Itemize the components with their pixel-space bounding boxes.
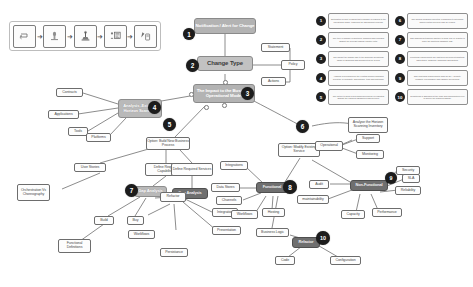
- legend-text: Gap analysis determines whether to build…: [407, 32, 468, 48]
- badge-9[interactable]: 9: [385, 172, 397, 184]
- badge-3[interactable]: 3: [241, 87, 254, 100]
- legend-number: 9: [395, 73, 405, 83]
- legend-item: 9 Non-functional requirements such as SL…: [395, 70, 468, 87]
- legend-number: 8: [395, 54, 405, 64]
- legend-text: Notification or alert is raised that a c…: [328, 13, 389, 29]
- node-sla[interactable]: SLA: [402, 174, 420, 183]
- legend-item: 2 The type of change is identified, clas…: [316, 31, 389, 48]
- connector-dot: [223, 80, 228, 85]
- node-workflows-left[interactable]: Workflows: [128, 230, 155, 239]
- node-functional-definitions[interactable]: Functional Definitions: [58, 239, 91, 253]
- connector-dot: [204, 105, 209, 110]
- badge-2[interactable]: 2: [186, 59, 199, 72]
- mindmap-canvas: ➜ ➜ ➜: [0, 0, 473, 287]
- arrow-icon-1: ➜: [37, 33, 43, 40]
- node-platforms[interactable]: Platforms: [86, 133, 111, 142]
- legend-item: 8 Functional requirements are captured c…: [395, 50, 468, 67]
- node-option-modify-existing-service[interactable]: Option: Modify Existing Service: [278, 143, 320, 157]
- legend-panel: 1 Notification or alert is raised that a…: [316, 12, 468, 112]
- legend-text: The type of change is identified, classi…: [328, 32, 389, 48]
- arrow-icon-2: ➜: [67, 33, 73, 40]
- connector-dot: [222, 103, 227, 108]
- badge-8[interactable]: 8: [283, 180, 297, 194]
- legend-item: 5 The option to build a new business pro…: [316, 89, 389, 106]
- node-statement[interactable]: Statement: [261, 43, 290, 52]
- node-performance[interactable]: Performance: [372, 208, 402, 217]
- legend-item: 6 The horizon scanning inventory is anal…: [395, 12, 468, 29]
- document-scan-icon: [43, 25, 66, 48]
- node-applications[interactable]: Applications: [48, 110, 79, 119]
- process-icon-legend: ➜ ➜ ➜: [9, 21, 161, 51]
- node-hosting[interactable]: Hosting: [262, 208, 285, 217]
- node-operational[interactable]: Operational: [315, 141, 343, 151]
- node-contracts[interactable]: Contracts: [56, 88, 83, 97]
- node-configuration[interactable]: Configuration: [330, 256, 361, 265]
- legend-text: Non-functional requirements such as SLA,…: [407, 70, 468, 86]
- legend-text: Analysis is performed on the existing ho…: [328, 70, 389, 86]
- badge-5[interactable]: 5: [163, 118, 176, 131]
- node-non-functional[interactable]: Non-Functional: [350, 180, 388, 191]
- node-notification-alert[interactable]: Notification / Alert for Change: [194, 18, 256, 34]
- legend-item: 10 Refactoring is assessed at the code a…: [395, 89, 468, 106]
- arrow-icon-4: ➜: [127, 33, 133, 40]
- legend-number: 3: [316, 54, 326, 64]
- badge-7[interactable]: 7: [125, 184, 138, 197]
- pen-tablet-icon: [134, 25, 157, 48]
- legend-text: The impact the change has to the busines…: [328, 51, 389, 67]
- connector-dot: [189, 92, 194, 97]
- badge-4[interactable]: 4: [148, 101, 161, 114]
- legend-text: The option to build a new business proce…: [328, 89, 389, 105]
- legend-number: 6: [395, 16, 405, 26]
- legend-text: Functional requirements are captured cov…: [407, 51, 468, 67]
- legend-column-right: 6 The horizon scanning inventory is anal…: [395, 12, 468, 108]
- node-integrations[interactable]: Integrations: [220, 161, 248, 170]
- legend-text: The horizon scanning inventory is analys…: [407, 13, 468, 29]
- arrow-icon-3: ➜: [97, 33, 103, 40]
- legend-item: 4 Analysis is performed on the existing …: [316, 70, 389, 87]
- node-orchestration-vs-choreography[interactable]: Orchestration Vs Choreography: [17, 184, 50, 201]
- node-policy[interactable]: Policy: [281, 60, 305, 70]
- node-tools[interactable]: Tools: [68, 127, 88, 136]
- node-buy[interactable]: Buy: [127, 216, 144, 225]
- node-reliability[interactable]: Reliability: [395, 186, 421, 195]
- badge-10[interactable]: 10: [316, 231, 330, 245]
- badge-1[interactable]: 1: [183, 28, 195, 40]
- microscope-icon: [74, 25, 97, 48]
- node-persistance[interactable]: Persistance: [160, 248, 188, 257]
- node-audit[interactable]: Audit: [309, 180, 329, 189]
- legend-column-left: 1 Notification or alert is raised that a…: [316, 12, 389, 108]
- return-arrow-icon: [13, 25, 36, 48]
- node-define-required-services[interactable]: Define Required Services: [171, 163, 213, 176]
- legend-item: 1 Notification or alert is raised that a…: [316, 12, 389, 29]
- legend-number: 4: [316, 73, 326, 83]
- node-option-build-new-business-process[interactable]: Option: Build New Business Process: [146, 137, 190, 150]
- node-channels[interactable]: Channels: [216, 196, 242, 205]
- node-maintainability[interactable]: maintainability: [297, 195, 329, 204]
- node-refactor-left[interactable]: Refactor: [160, 192, 186, 202]
- legend-number: 7: [395, 35, 405, 45]
- node-actions[interactable]: Actions: [261, 77, 286, 86]
- node-business-logic[interactable]: Business Logic: [256, 228, 289, 237]
- legend-text: Refactoring is assessed at the code and …: [407, 89, 468, 105]
- node-change-type[interactable]: Change Type: [197, 56, 253, 71]
- legend-number: 10: [395, 92, 405, 102]
- node-capacity[interactable]: Capacity: [341, 210, 365, 219]
- legend-item: 3 The impact the change has to the busin…: [316, 50, 389, 67]
- node-monitoring[interactable]: Monitoring: [356, 150, 384, 159]
- legend-number: 2: [316, 35, 326, 45]
- node-data-stores[interactable]: Data Stores: [211, 183, 240, 192]
- node-workflows-right[interactable]: Workflows: [231, 210, 258, 219]
- node-build[interactable]: Build: [94, 216, 114, 225]
- legend-number: 1: [316, 16, 326, 26]
- node-support[interactable]: Support: [356, 134, 380, 143]
- badge-6[interactable]: 6: [296, 120, 309, 133]
- person-chart-icon: [104, 25, 127, 48]
- legend-number: 5: [316, 92, 326, 102]
- node-user-stories[interactable]: User Stories: [74, 163, 106, 172]
- legend-item: 7 Gap analysis determines whether to bui…: [395, 31, 468, 48]
- node-analyse-horizon-scanning-inventory[interactable]: Analyse the Horizon Scanning Inventory: [348, 117, 388, 133]
- node-code[interactable]: Code: [275, 256, 295, 265]
- node-presentation[interactable]: Presentation: [212, 226, 241, 235]
